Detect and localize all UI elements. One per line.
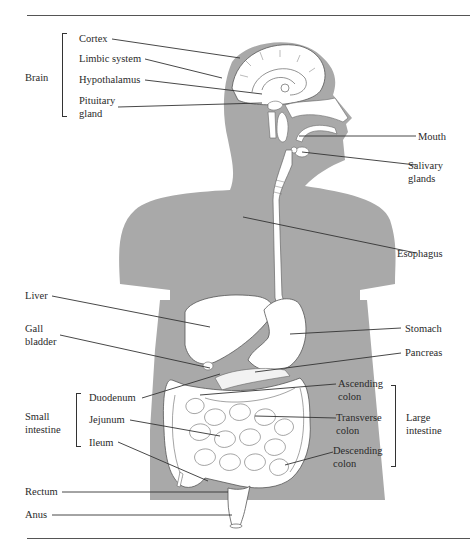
large-intestine-bracket	[391, 385, 396, 467]
label-ileum: Ileum	[89, 436, 114, 449]
label-duodenum: Duodenum	[89, 391, 136, 404]
label-mouth: Mouth	[418, 130, 446, 143]
label-salivary-glands: Salivary glands	[408, 159, 443, 185]
digestive-system-figure	[0, 0, 470, 553]
label-descending-colon: Descending colon	[333, 444, 383, 470]
small-intestine-bracket	[76, 393, 81, 447]
group-small-intestine: Small intestine	[25, 410, 61, 436]
rectum	[228, 486, 250, 526]
label-hypothalamus: Hypothalamus	[79, 73, 140, 86]
label-jejunum: Jejunum	[89, 413, 125, 426]
label-stomach: Stomach	[405, 322, 442, 335]
label-cortex: Cortex	[79, 32, 108, 45]
brain-bracket	[62, 33, 67, 117]
group-large-intestine: Large intestine	[406, 411, 442, 437]
label-transverse-colon: Transverse colon	[336, 411, 382, 437]
gall-bladder	[203, 362, 213, 370]
group-brain: Brain	[25, 71, 48, 84]
label-pituitary-gland: Pituitary gland	[79, 94, 115, 120]
label-ascending-colon: Ascending colon	[338, 377, 383, 403]
top-caption: · · ·	[27, 0, 44, 4]
anus	[230, 524, 242, 528]
label-liver: Liver	[25, 289, 48, 302]
label-limbic-system: Limbic system	[79, 52, 141, 65]
label-pancreas: Pancreas	[405, 346, 442, 359]
label-anus: Anus	[25, 508, 47, 521]
label-gall-bladder: Gall bladder	[25, 322, 57, 348]
label-esophagus: Esophagus	[397, 247, 443, 260]
label-rectum: Rectum	[25, 485, 58, 498]
